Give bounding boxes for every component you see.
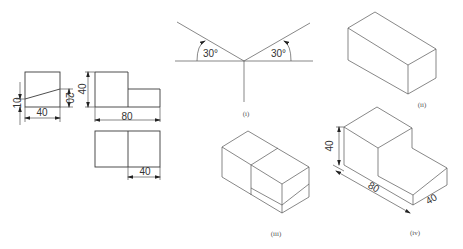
top-view: 40	[95, 131, 160, 180]
isometric-stepped-block-panel: 40 80 40 (iv)	[324, 107, 447, 237]
side-dim-40: 40	[36, 107, 48, 118]
block-dim-height: 40	[324, 140, 335, 152]
isometric-divided-box-panel: (iii)	[222, 131, 309, 238]
top-dim-40: 40	[139, 166, 151, 177]
block-dim-depth: 40	[424, 191, 440, 206]
side-view: 10 20 40	[12, 72, 75, 125]
panel-ii-label: (ii)	[418, 101, 427, 109]
angle-right-label: 30°	[271, 48, 286, 59]
panel-iv-label: (iv)	[410, 229, 421, 237]
isometric-axes-panel: 30° 30° (i)	[175, 22, 313, 118]
side-dim-10: 10	[12, 97, 23, 109]
front-view: 40 80	[77, 72, 160, 122]
panel-i-label: (i)	[243, 110, 250, 118]
front-dim-40: 40	[77, 83, 88, 95]
angle-left-label: 30°	[203, 48, 218, 59]
isometric-box-panel: (ii)	[348, 12, 436, 109]
panel-iii-label: (iii)	[271, 230, 282, 238]
side-dim-20: 20	[64, 92, 75, 104]
engineering-drawing: 10 20 40 40 80 40	[0, 0, 463, 249]
block-dim-length: 80	[366, 179, 382, 194]
front-dim-80: 80	[121, 111, 133, 122]
